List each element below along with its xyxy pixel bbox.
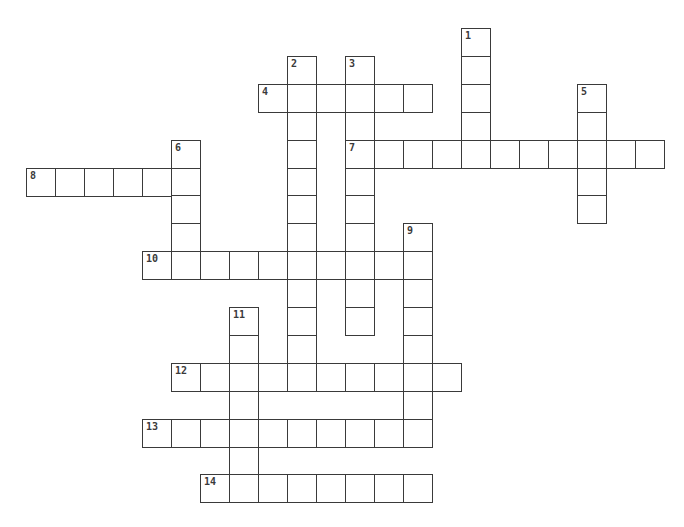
clue-number: 9 bbox=[407, 226, 413, 236]
crossword-cell[interactable]: 1 bbox=[461, 28, 491, 57]
crossword-cell[interactable] bbox=[229, 474, 259, 503]
crossword-cell[interactable]: 4 bbox=[258, 84, 288, 113]
crossword-cell[interactable]: 9 bbox=[403, 223, 433, 252]
crossword-cell[interactable] bbox=[316, 251, 346, 280]
crossword-cell[interactable] bbox=[577, 195, 607, 224]
crossword-cell[interactable] bbox=[345, 279, 375, 308]
crossword-cell[interactable] bbox=[258, 474, 288, 503]
crossword-cell[interactable]: 14 bbox=[200, 474, 230, 503]
crossword-cell[interactable] bbox=[229, 391, 259, 420]
crossword-cell[interactable] bbox=[345, 363, 375, 392]
crossword-cell[interactable] bbox=[287, 223, 317, 252]
crossword-cell[interactable]: 5 bbox=[577, 84, 607, 113]
crossword-cell[interactable] bbox=[403, 474, 433, 503]
crossword-cell[interactable] bbox=[171, 168, 201, 197]
crossword-cell[interactable]: 3 bbox=[345, 56, 375, 85]
crossword-cell[interactable] bbox=[287, 363, 317, 392]
crossword-cell[interactable] bbox=[577, 112, 607, 141]
crossword-cell[interactable] bbox=[316, 363, 346, 392]
crossword-cell[interactable] bbox=[287, 195, 317, 224]
crossword-cell[interactable] bbox=[345, 168, 375, 197]
crossword-cell[interactable] bbox=[55, 168, 85, 197]
crossword-cell[interactable] bbox=[374, 84, 404, 113]
clue-number: 8 bbox=[30, 171, 36, 181]
crossword-cell[interactable]: 6 bbox=[171, 140, 201, 169]
crossword-cell[interactable] bbox=[200, 419, 230, 448]
crossword-cell[interactable] bbox=[200, 363, 230, 392]
crossword-cell[interactable] bbox=[374, 140, 404, 169]
crossword-cell[interactable] bbox=[635, 140, 665, 169]
crossword-cell[interactable] bbox=[374, 419, 404, 448]
crossword-cell[interactable] bbox=[287, 84, 317, 113]
crossword-cell[interactable] bbox=[461, 112, 491, 141]
crossword-cell[interactable] bbox=[171, 223, 201, 252]
crossword-cell[interactable] bbox=[345, 474, 375, 503]
crossword-cell[interactable] bbox=[374, 251, 404, 280]
crossword-cell[interactable] bbox=[287, 251, 317, 280]
crossword-cell[interactable] bbox=[577, 168, 607, 197]
crossword-cell[interactable] bbox=[490, 140, 520, 169]
crossword-cell[interactable] bbox=[403, 307, 433, 336]
crossword-cell[interactable]: 11 bbox=[229, 307, 259, 336]
crossword-cell[interactable] bbox=[345, 112, 375, 141]
crossword-cell[interactable] bbox=[171, 419, 201, 448]
crossword-cell[interactable] bbox=[403, 335, 433, 364]
crossword-cell[interactable]: 8 bbox=[26, 168, 56, 197]
crossword-cell[interactable] bbox=[84, 168, 114, 197]
crossword-cell[interactable] bbox=[403, 363, 433, 392]
crossword-cell[interactable] bbox=[171, 195, 201, 224]
crossword-cell[interactable] bbox=[345, 223, 375, 252]
crossword-cell[interactable] bbox=[345, 251, 375, 280]
crossword-cell[interactable] bbox=[229, 363, 259, 392]
crossword-cell[interactable] bbox=[461, 140, 491, 169]
crossword-cell[interactable] bbox=[258, 363, 288, 392]
crossword-cell[interactable] bbox=[287, 419, 317, 448]
crossword-cell[interactable] bbox=[316, 84, 346, 113]
crossword-cell[interactable] bbox=[519, 140, 549, 169]
crossword-cell[interactable]: 2 bbox=[287, 56, 317, 85]
crossword-cell[interactable] bbox=[287, 168, 317, 197]
crossword-cell[interactable] bbox=[287, 279, 317, 308]
crossword-cell[interactable] bbox=[113, 168, 143, 197]
crossword-cell[interactable]: 12 bbox=[171, 363, 201, 392]
crossword-cell[interactable] bbox=[142, 168, 172, 197]
crossword-cell[interactable] bbox=[403, 251, 433, 280]
crossword-cell[interactable] bbox=[432, 140, 462, 169]
crossword-cell[interactable] bbox=[461, 56, 491, 85]
crossword-cell[interactable] bbox=[374, 474, 404, 503]
crossword-cell[interactable] bbox=[403, 419, 433, 448]
crossword-cell[interactable] bbox=[432, 363, 462, 392]
crossword-cell[interactable] bbox=[461, 84, 491, 113]
crossword-cell[interactable] bbox=[200, 251, 230, 280]
crossword-cell[interactable] bbox=[548, 140, 578, 169]
crossword-cell[interactable] bbox=[287, 335, 317, 364]
crossword-cell[interactable]: 10 bbox=[142, 251, 172, 280]
crossword-cell[interactable] bbox=[287, 474, 317, 503]
crossword-cell[interactable] bbox=[577, 140, 607, 169]
crossword-cell[interactable] bbox=[345, 195, 375, 224]
crossword-cell[interactable] bbox=[316, 474, 346, 503]
crossword-cell[interactable] bbox=[229, 335, 259, 364]
crossword-cell[interactable]: 7 bbox=[345, 140, 375, 169]
crossword-cell[interactable] bbox=[403, 140, 433, 169]
crossword-cell[interactable] bbox=[171, 251, 201, 280]
crossword-cell[interactable] bbox=[287, 307, 317, 336]
crossword-cell[interactable] bbox=[287, 112, 317, 141]
crossword-cell[interactable] bbox=[258, 251, 288, 280]
crossword-cell[interactable] bbox=[606, 140, 636, 169]
crossword-cell[interactable] bbox=[403, 391, 433, 420]
crossword-cell[interactable] bbox=[345, 84, 375, 113]
crossword-cell[interactable] bbox=[229, 419, 259, 448]
crossword-cell[interactable] bbox=[316, 419, 346, 448]
crossword-cell[interactable] bbox=[229, 251, 259, 280]
crossword-cell[interactable] bbox=[258, 419, 288, 448]
crossword-cell[interactable] bbox=[403, 279, 433, 308]
crossword-cell[interactable]: 13 bbox=[142, 419, 172, 448]
crossword-cell[interactable] bbox=[345, 307, 375, 336]
crossword-cell[interactable] bbox=[345, 419, 375, 448]
crossword-cell[interactable] bbox=[287, 140, 317, 169]
clue-number: 5 bbox=[581, 87, 587, 97]
crossword-cell[interactable] bbox=[374, 363, 404, 392]
crossword-cell[interactable] bbox=[229, 447, 259, 476]
crossword-cell[interactable] bbox=[403, 84, 433, 113]
